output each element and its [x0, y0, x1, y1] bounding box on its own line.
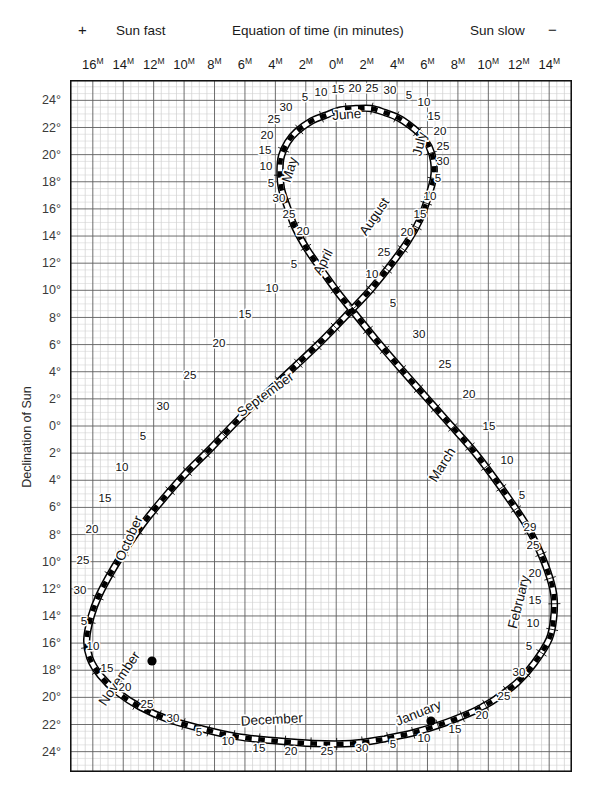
svg-text:20: 20 [261, 129, 274, 141]
day-number-label: 55 [519, 489, 525, 501]
svg-text:29: 29 [524, 521, 537, 533]
marker-dot [426, 716, 435, 725]
svg-text:5: 5 [140, 430, 146, 442]
day-number-label: 2020 [476, 709, 489, 721]
svg-text:5: 5 [519, 489, 525, 501]
day-number-label: 3030 [167, 712, 180, 724]
y-tick-label-9: 6° [49, 338, 61, 352]
page-title: Equation of time (in minutes) [232, 23, 404, 38]
x-tick-label-10: 4M [390, 57, 404, 72]
day-number-label: 2020 [261, 129, 274, 141]
svg-text:25: 25 [378, 246, 391, 258]
svg-text:15: 15 [483, 420, 496, 432]
day-number-label: 55 [390, 297, 396, 309]
sun-slow-label: Sun slow [470, 23, 525, 38]
y-tick-label-7: 10° [42, 283, 61, 297]
x-tick-unit: M [215, 56, 222, 66]
svg-text:25: 25 [321, 745, 334, 757]
x-tick-unit: M [96, 56, 103, 66]
day-number-label: 2020 [463, 388, 476, 400]
y-tick-label-24: 24° [42, 745, 61, 759]
y-axis-title: Declination of Sun [20, 372, 34, 502]
x-tick-unit: M [127, 56, 134, 66]
day-number-label: 2020 [119, 681, 132, 693]
y-tick-label-21: 18° [42, 663, 61, 677]
svg-text:25: 25 [498, 690, 511, 702]
y-tick-label-22: 20° [42, 690, 61, 704]
day-number-label: 3030 [157, 400, 170, 412]
day-number-label: 1515 [529, 594, 542, 606]
day-number-label: 1010 [527, 617, 540, 629]
day-number-label: 55 [526, 640, 532, 652]
day-number-label: 1515 [449, 723, 462, 735]
svg-text:10: 10 [366, 268, 379, 280]
x-tick-label-2: 12M [143, 57, 165, 72]
day-number-label: 3030 [513, 666, 526, 678]
y-tick-label-16: 8° [49, 528, 61, 542]
y-tick-label-13: 2° [49, 446, 61, 460]
svg-text:25: 25 [77, 554, 90, 566]
svg-text:5: 5 [526, 640, 532, 652]
day-number-label: 3030 [280, 101, 293, 113]
svg-text:10: 10 [87, 640, 100, 652]
y-tick-label-0: 24° [42, 93, 61, 107]
x-tick-label-8: 0M [329, 57, 343, 72]
day-number-label: 2525 [283, 208, 296, 220]
day-number-label: 1010 [260, 160, 273, 172]
x-tick-label-14: 12M [508, 57, 530, 72]
svg-text:30: 30 [413, 328, 426, 340]
svg-text:5: 5 [291, 258, 297, 270]
svg-text:20: 20 [285, 745, 298, 757]
x-tick-unit: M [367, 56, 374, 66]
day-number-label: 2525 [268, 113, 281, 125]
x-tick-label-5: 6M [238, 57, 252, 72]
svg-text:15: 15 [101, 662, 114, 674]
svg-text:5: 5 [406, 89, 412, 101]
svg-text:5: 5 [435, 172, 441, 184]
day-number-label: 1515 [259, 144, 272, 156]
y-tick-label-14: 4° [49, 473, 61, 487]
month-label-june: JuneJune [332, 106, 362, 123]
svg-text:30: 30 [273, 192, 286, 204]
x-tick-unit: M [157, 56, 164, 66]
svg-text:20: 20 [401, 226, 414, 238]
svg-text:25: 25 [141, 698, 154, 710]
day-number-label: 2525 [184, 369, 197, 381]
day-number-label: 2525 [77, 554, 90, 566]
y-tick-label-15: 6° [49, 500, 61, 514]
day-number-label: 1010 [418, 732, 431, 744]
svg-text:15: 15 [239, 308, 252, 320]
y-tick-label-5: 14° [42, 229, 61, 243]
day-number-label: 1010 [501, 454, 514, 466]
svg-text:15: 15 [529, 594, 542, 606]
day-number-label: 2020 [297, 225, 310, 237]
x-tick-unit: M [336, 56, 343, 66]
y-tick-label-11: 2° [49, 392, 61, 406]
svg-text:June: June [332, 106, 362, 123]
svg-text:15: 15 [259, 144, 272, 156]
svg-text:15: 15 [449, 723, 462, 735]
y-tick-label-20: 16° [42, 636, 61, 650]
y-tick-label-4: 16° [42, 202, 61, 216]
day-number-label: 2020 [86, 523, 99, 535]
x-tick-unit: M [245, 56, 252, 66]
plus-sign: + [78, 22, 87, 37]
svg-text:25: 25 [439, 358, 452, 370]
x-tick-label-3: 10M [173, 57, 195, 72]
day-number-label: 2020 [401, 226, 414, 238]
svg-text:10: 10 [116, 461, 129, 473]
day-number-label: 1010 [418, 96, 431, 108]
svg-text:20: 20 [529, 567, 542, 579]
day-number-label: 2020 [434, 125, 447, 137]
svg-text:20: 20 [213, 337, 226, 349]
y-tick-label-19: 14° [42, 609, 61, 623]
day-number-label: 55 [291, 258, 297, 270]
day-number-label: 55 [406, 89, 412, 101]
x-tick-unit: M [458, 56, 465, 66]
day-number-label: 55 [196, 726, 202, 738]
svg-text:5: 5 [268, 177, 274, 189]
x-tick-label-11: 6M [420, 57, 434, 72]
x-tick-value: 16 [82, 57, 96, 72]
marker-dot [147, 656, 156, 665]
chart-header: + Sun fast Equation of time (in minutes)… [0, 22, 598, 42]
